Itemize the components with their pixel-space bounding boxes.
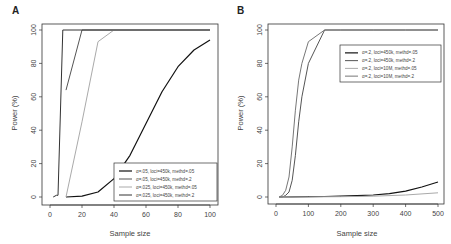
y-tick-label: 20 — [30, 160, 37, 168]
y-tick-label: 60 — [30, 93, 37, 101]
legend-entry: α=.2, loci=10M, methd=.05 — [362, 66, 417, 71]
panel-label: B — [237, 5, 244, 16]
x-axis: 020406080100 — [48, 205, 216, 218]
legend-entry: α=.025, loci=450k, methd=.2 — [136, 193, 195, 198]
legend: α=.2, loci=450k, methd=.05α=.2, loci=450… — [340, 45, 441, 82]
panel-label: A — [12, 5, 19, 16]
x-tick-label: 400 — [400, 210, 412, 217]
legend-entry: α=.2, loci=450k, methd=.05 — [362, 50, 418, 55]
x-tick-label: 20 — [78, 211, 86, 218]
x-tick-label: 300 — [367, 210, 379, 217]
y-tick-label: 80 — [30, 59, 37, 67]
legend-entry: α=.05, loci=450k, methd=.05 — [136, 169, 195, 174]
y-axis: 020406080100 — [256, 24, 268, 199]
y-tick-label: 80 — [256, 59, 263, 67]
x-axis-label: Sample size — [110, 229, 151, 238]
x-axis-label: Sample size — [337, 229, 378, 238]
legend-entry: α=.05, loci=450k, methd=.2 — [136, 177, 192, 182]
x-tick-label: 0 — [48, 211, 52, 218]
legend: α=.05, loci=450k, methd=.05α=.05, loci=4… — [114, 163, 217, 201]
x-tick-label: 40 — [110, 211, 118, 218]
x-tick-label: 500 — [432, 210, 444, 217]
y-tick-label: 60 — [256, 93, 263, 101]
x-tick-label: 0 — [274, 210, 278, 217]
x-tick-label: 200 — [335, 210, 347, 217]
legend-entry: α=.2, loci=450k, methd=.2 — [362, 58, 416, 63]
x-tick-label: 100 — [303, 210, 315, 217]
y-axis-label: Power (%) — [10, 95, 19, 131]
x-tick-label: 80 — [174, 211, 182, 218]
y-tick-label: 40 — [30, 126, 37, 134]
y-tick-label: 20 — [256, 160, 263, 168]
series-line — [66, 30, 210, 90]
y-axis-label: Power (%) — [236, 95, 245, 131]
y-tick-label: 100 — [256, 24, 263, 36]
x-tick-label: 60 — [142, 211, 150, 218]
y-tick-label: 0 — [256, 195, 263, 199]
panel-b: B0100200300400500020406080100Sample size… — [236, 5, 444, 238]
x-axis: 0100200300400500 — [274, 204, 444, 217]
legend-entry: α=.025, loci=450k, methd=.05 — [136, 185, 197, 190]
y-tick-label: 100 — [30, 24, 37, 36]
x-tick-label: 100 — [204, 211, 216, 218]
legend-entry: α=.2, loci=10M, methd=.2 — [362, 74, 415, 79]
y-tick-label: 40 — [256, 126, 263, 134]
panel-a: A020406080100020406080100Sample sizePowe… — [10, 5, 218, 238]
y-axis: 020406080100 — [30, 24, 42, 199]
y-tick-label: 0 — [30, 195, 37, 199]
power-analysis-figure: A020406080100020406080100Sample sizePowe… — [0, 0, 451, 244]
